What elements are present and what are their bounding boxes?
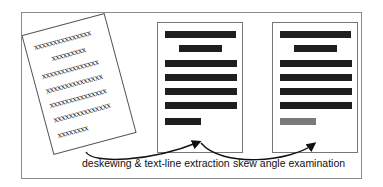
step-label-deskewing: deskewing & text-line extraction (82, 157, 230, 169)
step-label-skew-examination: skew angle examination (233, 157, 345, 169)
